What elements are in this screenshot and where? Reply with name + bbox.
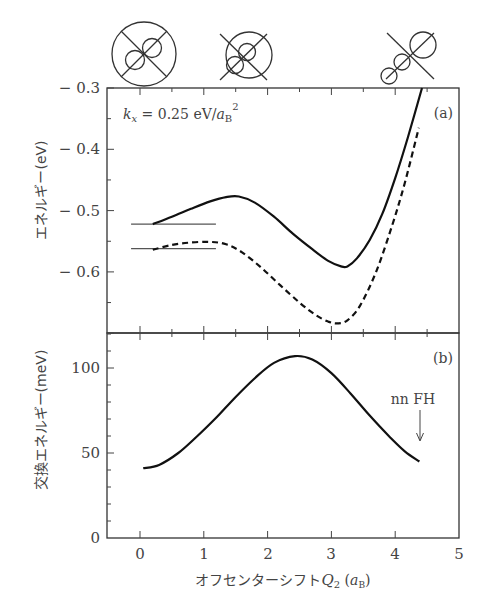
y-axis-a-title: エネルギー(eV) xyxy=(33,140,49,239)
curve-b-exchange xyxy=(143,356,419,468)
xtick: 1 xyxy=(199,545,209,563)
ytick-a: − 0.4 xyxy=(59,140,100,158)
chart: − 0.3 − 0.4 − 0.5 − 0.6 100 50 0 0 1 2 3… xyxy=(0,0,487,614)
kx-annotation: kx = 0.25 eV/aB2 xyxy=(123,101,239,124)
curve-a-dashed xyxy=(153,128,419,324)
x-axis-title: オフセンターシフトQ2 (aB) xyxy=(195,571,370,590)
panel-a-label: (a) xyxy=(434,105,453,121)
y-axis-b-ticklabels: 100 50 0 xyxy=(71,359,100,547)
panel-b-frame xyxy=(107,333,459,538)
xtick: 2 xyxy=(263,545,273,563)
nnfh-annotation: nn FH xyxy=(391,391,435,407)
diagram-centered xyxy=(112,22,176,86)
ytick-b: 50 xyxy=(81,444,100,462)
diagram-offcenter xyxy=(381,32,436,84)
y-axis-b-title: 交換エネルギー(meV) xyxy=(33,350,49,491)
ytick-b: 100 xyxy=(71,359,100,377)
ytick-a: − 0.6 xyxy=(59,263,100,281)
x-axis-ticklabels: 0 1 2 3 4 5 xyxy=(135,545,464,563)
nnfh-arrow-icon xyxy=(417,410,424,441)
xtick: 4 xyxy=(390,545,400,563)
diagram-intermediate xyxy=(220,32,272,80)
axis-ticks xyxy=(107,88,427,538)
panel-a-frame xyxy=(107,88,459,333)
ytick-b: 0 xyxy=(90,529,100,547)
xtick: 0 xyxy=(135,545,145,563)
y-axis-a-ticklabels: − 0.3 − 0.4 − 0.5 − 0.6 xyxy=(59,79,100,281)
xtick: 5 xyxy=(454,545,464,563)
ytick-a: − 0.3 xyxy=(59,79,100,97)
xtick: 3 xyxy=(326,545,336,563)
ytick-a: − 0.5 xyxy=(59,202,100,220)
panel-b-label: (b) xyxy=(433,350,453,366)
